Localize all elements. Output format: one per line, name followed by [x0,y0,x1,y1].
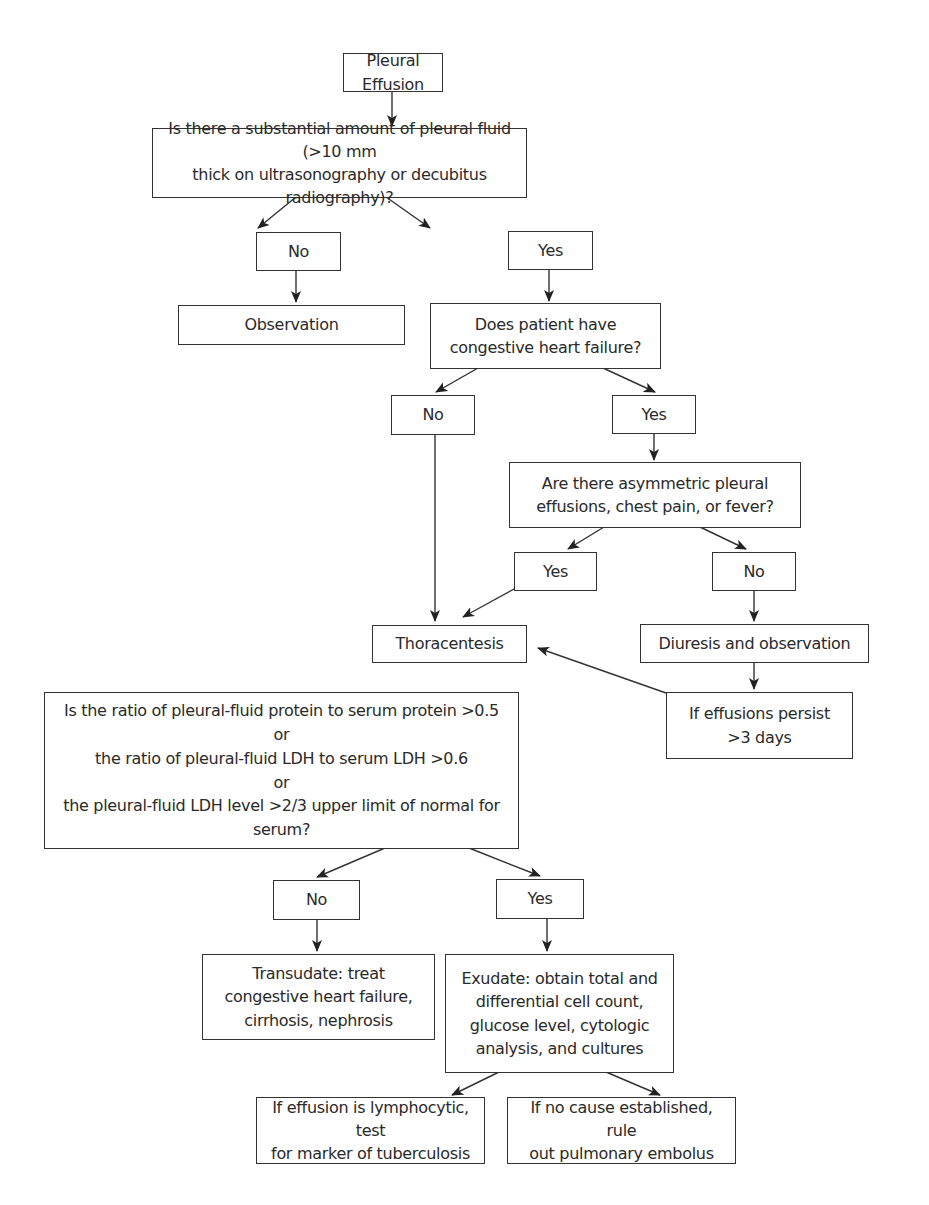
node-effusions-persist: If effusions persist >3 days [666,692,853,759]
node-no-fluid: No [256,232,341,271]
node-transudate: Transudate: treat congestive heart failu… [202,954,435,1040]
node-question-chf: Does patient have congestive heart failu… [430,303,661,369]
node-thoracentesis: Thoracentesis [372,625,527,663]
node-question-fluid-amount: Is there a substantial amount of pleural… [152,128,527,198]
flowchart: Pleural Effusion Is there a substantial … [0,0,929,1205]
node-no-chf: No [391,395,475,435]
node-yes-ratio: Yes [496,879,584,919]
node-exudate: Exudate: obtain total and differential c… [445,954,674,1073]
node-yes-fluid: Yes [508,231,593,270]
node-question-ratio: Is the ratio of pleural-fluid protein to… [44,692,519,849]
node-yes-asymmetric: Yes [514,552,597,591]
node-observation: Observation [178,305,405,345]
node-pulmonary-embolus: If no cause established, rule out pulmon… [507,1097,736,1164]
node-question-asymmetric: Are there asymmetric pleural effusions, … [509,462,801,528]
node-start: Pleural Effusion [343,53,443,92]
node-diuresis-observation: Diuresis and observation [640,624,869,663]
node-no-ratio: No [273,880,360,920]
node-lymphocytic-tb: If effusion is lymphocytic, test for mar… [256,1097,485,1164]
node-yes-chf: Yes [612,395,696,434]
node-no-asymmetric: No [712,552,796,591]
